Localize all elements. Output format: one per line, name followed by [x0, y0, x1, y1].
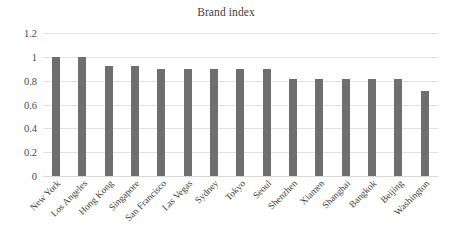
x-axis-label: Sydney	[194, 179, 221, 206]
bar-slot	[306, 33, 332, 176]
x-axis-category-labels: New YorkLos AngelesHong KongSingaporeSan…	[43, 179, 438, 250]
y-axis-tick-label: 1.2	[24, 28, 37, 39]
bar-slot	[96, 33, 122, 176]
gridline-0	[43, 176, 438, 177]
y-axis-tick-label: 0.6	[24, 99, 37, 110]
y-axis-tick-label: 0.4	[24, 123, 37, 134]
bar-slot	[43, 33, 69, 176]
plot-area: 00.20.40.60.811.2	[43, 33, 438, 176]
bar[interactable]	[368, 79, 376, 176]
bar[interactable]	[210, 69, 218, 176]
y-axis-tick-label: 0.8	[24, 75, 37, 86]
x-axis-label: Bangkok	[348, 179, 379, 210]
x-axis-label: Tokyo	[223, 179, 247, 203]
x-axis-label: Seoul	[252, 179, 274, 201]
chart-title: Brand index	[0, 6, 452, 18]
bar-slot	[333, 33, 359, 176]
bar[interactable]	[184, 69, 192, 176]
bar[interactable]	[263, 69, 271, 176]
bars-group	[43, 33, 438, 176]
bar-slot	[175, 33, 201, 176]
bar-slot	[385, 33, 411, 176]
bar[interactable]	[236, 69, 244, 176]
bar-slot	[412, 33, 438, 176]
bar[interactable]	[289, 79, 297, 176]
y-axis-tick-label: 1	[32, 51, 37, 62]
bar-slot	[359, 33, 385, 176]
bar[interactable]	[52, 57, 60, 176]
bar[interactable]	[157, 69, 165, 176]
y-axis-tick-label: 0.2	[24, 147, 37, 158]
bar-slot	[280, 33, 306, 176]
bar[interactable]	[78, 57, 86, 176]
bar[interactable]	[131, 66, 139, 176]
bar-slot	[69, 33, 95, 176]
y-axis-tick-label: 0	[32, 171, 37, 182]
bar-slot	[227, 33, 253, 176]
bar[interactable]	[394, 79, 402, 176]
bar[interactable]	[105, 66, 113, 176]
bar-slot	[148, 33, 174, 176]
brand-index-bar-chart: Brand index 00.20.40.60.811.2 New YorkLo…	[0, 0, 452, 250]
bar[interactable]	[342, 79, 350, 176]
bar-slot	[122, 33, 148, 176]
bar-slot	[201, 33, 227, 176]
bar[interactable]	[421, 91, 429, 176]
bar-slot	[254, 33, 280, 176]
bar[interactable]	[315, 79, 323, 176]
